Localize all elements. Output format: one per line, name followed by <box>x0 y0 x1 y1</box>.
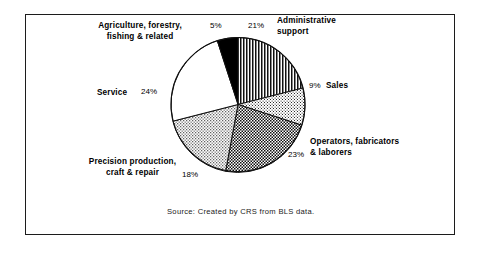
pie-label-agriculture: Agriculture, forestry, fishing & related <box>74 21 206 42</box>
pie-label-service: Service <box>97 88 127 99</box>
pie-percent-operators: 23% <box>288 150 304 159</box>
pie-label-operators: Operators, fabricators & laborers <box>310 137 440 158</box>
pie-label-administrative: Administrative support <box>277 16 397 37</box>
pie-label-agriculture-line2: fishing & related <box>107 32 174 41</box>
source-note: Source: Created by CRS from BLS data. <box>167 207 314 216</box>
pie-label-precision-line1: Precision production, <box>89 157 176 166</box>
figure-frame <box>25 14 455 235</box>
pie-percent-service: 24% <box>141 87 157 96</box>
pie-percent-precision: 18% <box>182 170 198 179</box>
pie-label-agriculture-line1: Agriculture, forestry, <box>98 21 182 30</box>
pie-label-sales: Sales <box>326 81 348 92</box>
pie-label-administrative-line2: support <box>277 27 309 36</box>
pie-label-administrative-line1: Administrative <box>277 16 336 25</box>
pie-percent-administrative: 21% <box>248 21 264 30</box>
pie-percent-sales: 9% <box>309 81 321 90</box>
pie-label-precision-line2: craft & repair <box>106 168 159 177</box>
pie-label-operators-line1: Operators, fabricators <box>310 137 399 146</box>
pie-percent-agriculture: 5% <box>210 21 222 30</box>
pie-label-operators-line2: & laborers <box>310 148 352 157</box>
